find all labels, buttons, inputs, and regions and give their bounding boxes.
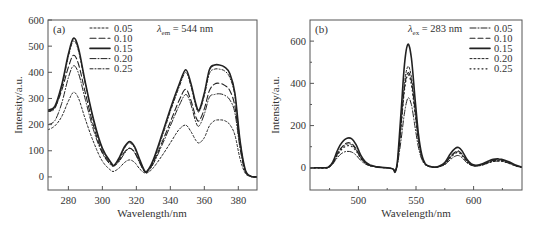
y-tick-label: 400	[28, 67, 44, 78]
lambda-value: = 544 nm	[170, 23, 213, 34]
panel-b-legend: 0.050.100.150.200.25	[470, 23, 512, 75]
x-tick-label: 500	[351, 195, 367, 206]
y-tick-label: 600	[290, 36, 306, 47]
legend-label-0.25: 0.25	[494, 63, 512, 74]
panel-b-label: (b)	[315, 23, 328, 36]
y-tick-label: 100	[28, 145, 44, 156]
series-line-0.25	[48, 41, 257, 177]
y-tick-label: 200	[290, 120, 306, 131]
x-tick-label: 380	[230, 195, 246, 206]
panel-b-y-axis-title: Intensity/a.u.	[269, 76, 281, 134]
y-tick-label: 200	[28, 119, 44, 130]
panel-a-curves	[48, 38, 257, 177]
x-tick-label: 600	[466, 195, 482, 206]
y-tick-label: 600	[28, 15, 44, 26]
panel-a-annotation: λem = 544 nm	[156, 23, 213, 37]
series-line-0.10	[48, 55, 257, 177]
panel-a-x-axis: 280300320340360380	[61, 186, 247, 206]
x-tick-label: 280	[61, 195, 77, 206]
panel-a-y-axis-title: Intensity/a.u.	[12, 76, 24, 134]
panel-b-annotation: λex = 283 nm	[407, 23, 462, 37]
legend-label-0.25: 0.25	[114, 63, 132, 74]
x-tick-label: 340	[162, 195, 178, 206]
panel-a-x-axis-title: Wavelength/nm	[117, 207, 187, 219]
panel-b-x-axis: 500550600	[330, 186, 503, 206]
panel-b-x-axis-title: Wavelength/nm	[381, 207, 451, 219]
y-tick-label: 500	[28, 41, 44, 52]
x-tick-label: 360	[196, 195, 212, 206]
panel-a-legend: 0.050.100.150.200.25	[90, 23, 132, 75]
y-tick-label: 0	[301, 162, 306, 173]
panel-b-curves	[310, 44, 522, 172]
x-tick-label: 550	[408, 195, 424, 206]
panel-a-chart: 280300320340360380 0100200300400500600 (…	[12, 15, 257, 220]
figure-canvas: 280300320340360380 0100200300400500600 (…	[0, 0, 538, 229]
x-tick-label: 300	[94, 195, 110, 206]
y-tick-label: 400	[290, 78, 306, 89]
y-tick-label: 0	[39, 171, 44, 182]
series-line-0.15	[48, 38, 257, 177]
y-tick-label: 300	[28, 93, 44, 104]
panel-b-chart: 500550600 0200400600 (b) Wavelength/nm I…	[269, 20, 522, 219]
lambda-value: = 283 nm	[419, 23, 462, 34]
panel-a-label: (a)	[53, 23, 66, 36]
series-line-0.25	[310, 75, 522, 172]
x-tick-label: 320	[128, 195, 144, 206]
